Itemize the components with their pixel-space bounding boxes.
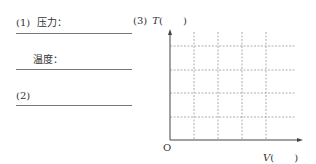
x-axis-label: V( ) xyxy=(263,152,298,164)
x-axis-arrow-icon xyxy=(297,138,303,142)
grid xyxy=(170,32,296,140)
tv-graph xyxy=(0,0,316,164)
y-axis-arrow-icon xyxy=(168,29,172,35)
origin-label: O xyxy=(163,142,171,154)
x-axis-unit-blank[interactable]: ( ) xyxy=(270,152,298,163)
